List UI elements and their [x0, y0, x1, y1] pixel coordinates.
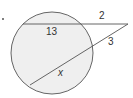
lower-chord-label: x [58, 68, 63, 78]
upper-external-segment-label: 2 [99, 11, 105, 21]
upper-chord-label: 13 [46, 27, 57, 37]
lower-external-segment-label: 3 [108, 37, 114, 47]
secant-diagram [0, 0, 133, 98]
